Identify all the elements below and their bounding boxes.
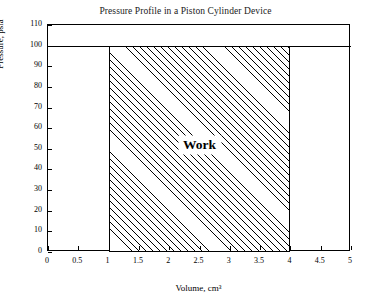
y-tick-label: 10: [0, 226, 42, 234]
x-tick-mark: [260, 246, 261, 250]
x-tick-label: 0: [32, 257, 62, 265]
x-tick-mark: [351, 246, 352, 250]
y-tick-mark: [48, 149, 52, 150]
y-tick-label: 110: [0, 20, 42, 28]
plot-area: Work: [47, 24, 350, 251]
y-tick-mark: [48, 25, 52, 26]
chart-container: Pressure Profile in a Piston Cylinder De…: [0, 0, 371, 304]
y-tick-label: 50: [0, 144, 42, 152]
work-label: Work: [178, 135, 221, 154]
x-tick-label: 3.5: [244, 257, 274, 265]
x-tick-label: 2: [153, 257, 183, 265]
x-tick-label: 0.5: [62, 257, 92, 265]
y-tick-mark: [48, 169, 52, 170]
y-tick-label: 0: [0, 247, 42, 255]
x-tick-label: 1: [93, 257, 123, 265]
x-tick-mark: [139, 246, 140, 250]
y-tick-mark: [48, 190, 52, 191]
x-tick-label: 1.5: [123, 257, 153, 265]
y-tick-mark: [48, 231, 52, 232]
pressure-line: [48, 46, 351, 47]
y-tick-mark: [48, 211, 52, 212]
y-tick-label: 60: [0, 123, 42, 131]
x-tick-label: 5: [335, 257, 365, 265]
x-tick-label: 2.5: [184, 257, 214, 265]
y-tick-label: 30: [0, 185, 42, 193]
y-tick-label: 70: [0, 103, 42, 111]
y-tick-mark: [48, 66, 52, 67]
x-tick-label: 4.5: [305, 257, 335, 265]
x-tick-mark: [321, 246, 322, 250]
y-tick-label: 20: [0, 206, 42, 214]
x-axis-label: Volume, cm³: [47, 283, 350, 293]
x-tick-mark: [200, 246, 201, 250]
y-tick-mark: [48, 87, 52, 88]
y-tick-label: 80: [0, 82, 42, 90]
x-tick-mark: [48, 246, 49, 250]
y-tick-label: 40: [0, 164, 42, 172]
y-tick-label: 90: [0, 61, 42, 69]
x-tick-mark: [78, 246, 79, 250]
x-tick-label: 4: [274, 257, 304, 265]
y-tick-mark: [48, 108, 52, 109]
x-tick-mark: [169, 246, 170, 250]
x-tick-label: 3: [214, 257, 244, 265]
y-tick-label: 100: [0, 41, 42, 49]
x-tick-mark: [230, 246, 231, 250]
y-tick-mark: [48, 128, 52, 129]
chart-title: Pressure Profile in a Piston Cylinder De…: [0, 6, 371, 16]
y-tick-mark: [48, 252, 52, 253]
x-tick-mark: [109, 246, 110, 250]
x-tick-mark: [290, 246, 291, 250]
